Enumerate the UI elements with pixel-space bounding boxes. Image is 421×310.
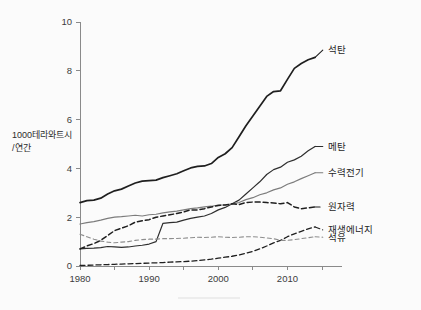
series-leader-coal [315,50,323,57]
y-tick-label: 4 [67,163,72,174]
x-tick-label: 1980 [69,273,90,284]
y-axis-title-line2: /연간 [12,143,31,153]
series-line-methane [80,146,315,248]
y-tick-label: 0 [67,260,72,271]
series-line-hydro [80,173,315,224]
series-label-methane: 메탄 [328,141,346,152]
x-tick-label: 1990 [139,273,160,284]
series-line-nuclear [80,202,315,249]
series-label-hydro: 수력전기 [328,167,364,178]
series-line-renewable [80,227,315,266]
y-tick-label: 6 [67,114,72,125]
y-tick-label: 8 [67,65,72,76]
x-tick-label: 2000 [208,273,229,284]
y-axis-title-line1: 1000테라와트시 [12,129,72,140]
series-leader-renewable [315,227,323,230]
energy-sources-line-chart: 024681019801990200020101000테라와트시/연간석탄메탄수… [0,0,421,310]
series-label-coal: 석탄 [328,44,346,55]
series-label-oil: 석유 [328,232,346,243]
series-line-oil [80,234,315,243]
screenshot-root: 024681019801990200020101000테라와트시/연간석탄메탄수… [0,0,421,310]
series-label-nuclear: 원자력 [328,201,355,212]
y-tick-label: 2 [67,212,72,223]
chart-svg: 024681019801990200020101000테라와트시/연간석탄메탄수… [0,0,421,310]
y-tick-label: 10 [61,16,72,27]
x-tick-label: 2010 [277,273,298,284]
series-line-coal [80,57,315,202]
bottom-divider-artifact [178,297,240,299]
